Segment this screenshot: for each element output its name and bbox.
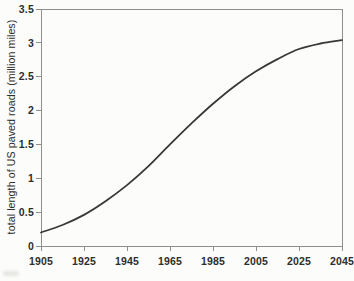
y-axis-tick-label: 3.5: [19, 3, 34, 15]
x-axis-tick-label: 2045: [330, 255, 354, 267]
chart-canvas: 3.5 3 2.5 2 1.5 1 0.5 0 1905 1925 1945 1…: [0, 0, 354, 281]
y-axis-tick-label: 3: [28, 37, 34, 49]
y-axis-tick-label: 1: [28, 172, 34, 184]
roads-line-chart: total length of US paved roads (million …: [0, 0, 354, 281]
y-axis-tick-label: 0: [28, 240, 34, 252]
y-axis-tick-label: 2.5: [19, 70, 34, 82]
x-axis-tick-label: 1905: [29, 255, 53, 267]
y-axis-ticks: [36, 9, 41, 246]
x-axis-tick-label: 2025: [287, 255, 311, 267]
x-axis-tick-label: 1985: [201, 255, 225, 267]
x-axis-tick-label: 2005: [244, 255, 268, 267]
scan-artifact: [3, 271, 19, 276]
x-axis-tick-label: 1965: [158, 255, 182, 267]
roads-curve: [41, 40, 342, 232]
y-axis-tick-label: 0.5: [19, 206, 34, 218]
x-axis-tick-labels: 1905 1925 1945 1965 1985 2005 2025 2045: [29, 255, 354, 267]
x-axis-ticks: [41, 246, 342, 251]
plot-border: [41, 9, 342, 246]
y-axis-tick-labels: 3.5 3 2.5 2 1.5 1 0.5 0: [19, 3, 34, 252]
y-axis-tick-label: 1.5: [19, 138, 34, 150]
x-axis-tick-label: 1945: [115, 255, 139, 267]
x-axis-tick-label: 1925: [72, 255, 96, 267]
y-axis-tick-label: 2: [28, 104, 34, 116]
